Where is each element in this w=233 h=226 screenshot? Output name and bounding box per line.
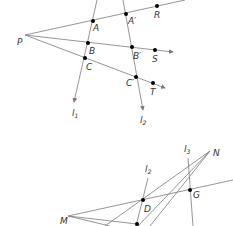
label-l3: l3 — [184, 144, 191, 155]
label-c-prime: C′ — [126, 78, 134, 88]
line-n-low — [150, 151, 210, 226]
label-p: P — [17, 37, 23, 47]
label-n: N — [213, 148, 220, 158]
point-c — [83, 56, 87, 60]
figure-bottom: N M D G l2 l3 — [60, 144, 233, 226]
ray-p-a-r — [25, 0, 185, 35]
geometry-diagram: P A B C A′ B′ C′ R S T l1 l2 N — [0, 0, 233, 226]
label-m: M — [60, 216, 68, 226]
label-r: R — [154, 10, 160, 20]
line-n-mid — [138, 151, 210, 226]
line-l2-bottom — [136, 178, 148, 226]
label-c: C — [86, 62, 93, 72]
figure-top: P A B C A′ B′ C′ R S T l1 l2 — [17, 0, 185, 126]
point-b — [86, 41, 90, 45]
line-m-low — [68, 216, 137, 224]
label-t: T — [150, 87, 157, 97]
label-a: A — [92, 23, 99, 33]
point-s — [153, 48, 157, 52]
label-l1: l1 — [72, 108, 78, 119]
point-t — [151, 81, 155, 85]
point-c-prime — [134, 75, 138, 79]
label-g: G — [193, 190, 200, 200]
label-b-prime: B′ — [133, 51, 141, 61]
line-m-low2 — [68, 216, 110, 226]
label-a-prime: A′ — [127, 16, 136, 26]
point-below-d — [135, 222, 139, 226]
label-l2-top: l2 — [140, 115, 147, 126]
label-b: B — [89, 46, 95, 56]
label-s: S — [152, 54, 158, 64]
label-l2-bottom: l2 — [145, 164, 152, 175]
point-d — [141, 198, 145, 202]
point-b-prime — [130, 45, 134, 49]
point-g — [188, 188, 192, 192]
label-d: D — [144, 204, 151, 214]
point-r — [155, 4, 159, 8]
